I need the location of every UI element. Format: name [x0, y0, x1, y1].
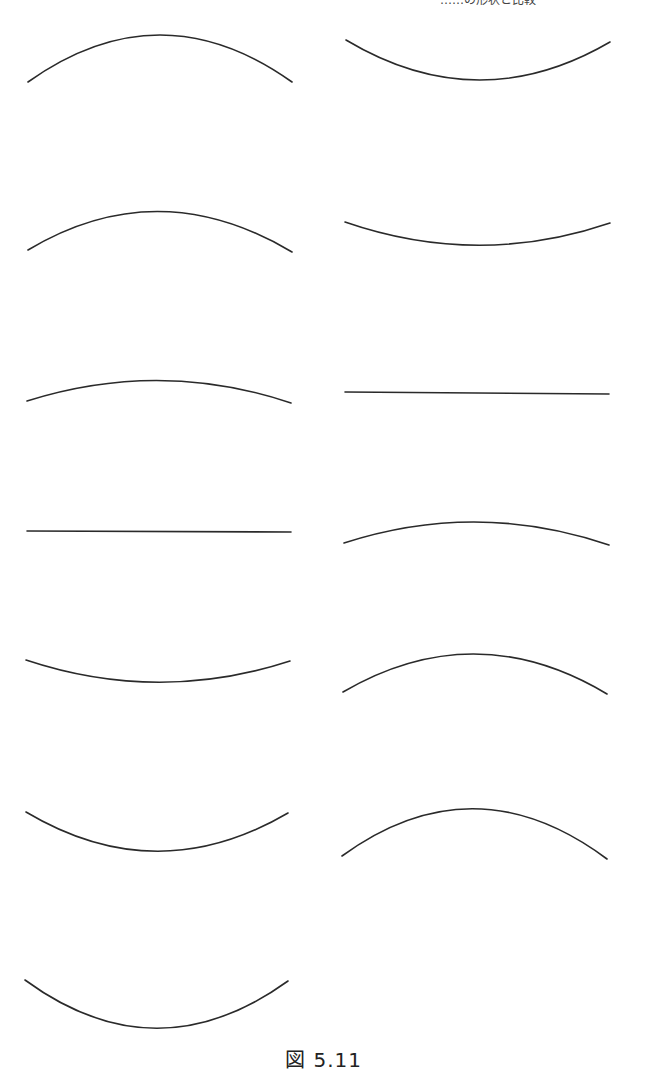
curve-figure: [0, 0, 647, 1081]
curve-l1-arc-up: [28, 35, 292, 82]
curve-l4-line: [27, 531, 291, 532]
curve-r3-line: [345, 392, 609, 394]
curve-r1-arc-down: [346, 40, 610, 80]
curve-l3-arc-up: [27, 380, 291, 403]
curve-group: [25, 35, 610, 1028]
curve-l2-arc-up: [28, 211, 292, 252]
figure-caption: 図 5.11: [0, 1044, 647, 1073]
curve-l7-arc-down: [25, 980, 288, 1028]
curve-l6-arc-down: [26, 812, 288, 851]
curve-r4-arc-up: [344, 522, 609, 545]
curve-r2-arc-down: [345, 222, 610, 245]
curve-r6-arc-up: [342, 809, 607, 859]
curve-l5-arc-down: [26, 660, 290, 682]
curve-r5-arc-up: [343, 654, 607, 694]
